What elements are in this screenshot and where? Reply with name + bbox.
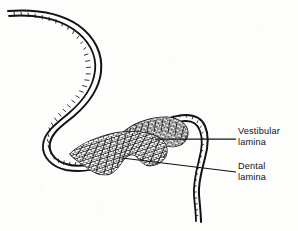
lamina-diagram-svg [0,0,298,231]
epithelium-outer-edge [8,11,208,222]
label-vestibular-lamina: Vestibular lamina [238,126,280,149]
figure-root: Vestibular lamina Dental lamina [0,0,298,231]
label-dental-line1: Dental [238,161,265,171]
label-dental-line2: lamina [238,172,266,183]
epithelium-cell-ticks [14,12,204,216]
label-dental-lamina: Dental lamina [238,161,266,184]
oral-epithelium-band [8,11,208,222]
label-vestibular-line1: Vestibular [238,126,280,136]
leader-line-dental [122,158,236,172]
label-vestibular-line2: lamina [238,137,280,148]
